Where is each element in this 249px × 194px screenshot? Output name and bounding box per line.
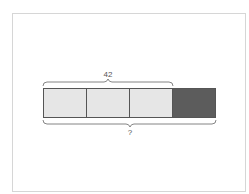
segment-2	[86, 89, 129, 117]
segment-1	[44, 89, 86, 117]
top-brace-icon	[43, 79, 173, 86]
bottom-brace-icon	[43, 120, 216, 127]
tape-bar	[43, 88, 216, 118]
top-brace-label: 42	[93, 70, 123, 79]
segment-4-shaded	[172, 89, 215, 117]
segment-3	[129, 89, 172, 117]
bottom-brace-label: ?	[115, 128, 145, 137]
